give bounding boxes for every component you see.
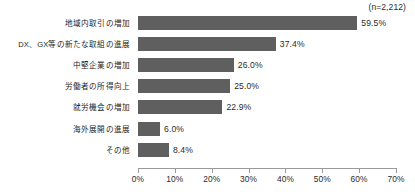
category-axis-labels: 地域内取引の増加DX、GX等の新たな取組の進展中堅企業の増加労働者の所得向上就労… — [0, 16, 130, 168]
plot-area: 59.5%37.4%26.0%25.0%22.9%6.0%8.4% — [138, 16, 396, 168]
x-axis-tick — [322, 169, 323, 173]
x-axis-tick-label: 10% — [155, 174, 195, 184]
x-axis-tick-label: 20% — [192, 174, 232, 184]
category-label: DX、GX等の新たな取組の進展 — [0, 40, 130, 49]
category-label: 中堅企業の増加 — [0, 61, 130, 70]
x-axis-line — [138, 168, 397, 169]
bar-value-label: 37.4% — [276, 37, 305, 51]
bar-value-label: 59.5% — [357, 16, 386, 30]
bar-row: 37.4% — [138, 37, 396, 51]
bar-value-label: 26.0% — [234, 58, 263, 72]
bar-value-label: 22.9% — [222, 100, 251, 114]
x-axis-tick — [359, 169, 360, 173]
bar — [138, 16, 357, 30]
sample-size-annotation: (n=2,212) — [368, 2, 406, 12]
x-axis-tick — [285, 169, 286, 173]
category-label: その他 — [0, 146, 130, 155]
bar-row: 26.0% — [138, 58, 396, 72]
x-axis-tick — [212, 169, 213, 173]
x-axis-tick-label: 40% — [265, 174, 305, 184]
bar — [138, 143, 169, 157]
bar — [138, 37, 276, 51]
category-label: 就労機会の増加 — [0, 103, 130, 112]
bar — [138, 122, 160, 136]
bar-value-label: 8.4% — [169, 143, 193, 157]
bar-row: 25.0% — [138, 79, 396, 93]
bar-row: 8.4% — [138, 143, 396, 157]
bar-value-label: 6.0% — [160, 122, 184, 136]
bar — [138, 100, 222, 114]
bar-row: 59.5% — [138, 16, 396, 30]
category-label: 労働者の所得向上 — [0, 82, 130, 91]
x-axis-tick-label: 0% — [118, 174, 158, 184]
x-axis-tick — [249, 169, 250, 173]
x-axis-tick — [175, 169, 176, 173]
bar — [138, 79, 230, 93]
bar-value-label: 25.0% — [230, 79, 259, 93]
x-axis-tick-label: 70% — [376, 174, 415, 184]
bar-chart: (n=2,212) 地域内取引の増加DX、GX等の新たな取組の進展中堅企業の増加… — [0, 0, 415, 195]
category-label: 地域内取引の増加 — [0, 19, 130, 28]
x-axis-tick-label: 60% — [339, 174, 379, 184]
bar — [138, 58, 234, 72]
bar-row: 6.0% — [138, 122, 396, 136]
x-axis-tick — [396, 169, 397, 173]
bar-row: 22.9% — [138, 100, 396, 114]
category-label: 海外展開の進展 — [0, 125, 130, 134]
x-axis-tick-label: 30% — [229, 174, 269, 184]
x-axis-tick — [138, 169, 139, 173]
x-axis-tick-label: 50% — [302, 174, 342, 184]
